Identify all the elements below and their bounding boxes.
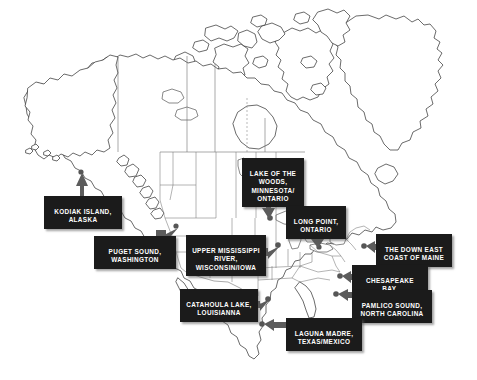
marker-maine	[361, 243, 367, 249]
callout-pamlico-sound-north-carolina[interactable]: PAMLICO SOUND, NORTH CAROLINA	[352, 290, 432, 323]
callout-long-point-ontario[interactable]: LONG POINT, ONTARIO	[286, 206, 346, 239]
callout-down-east-coast-maine[interactable]: THE DOWN EAST COAST OF MAINE	[376, 234, 452, 267]
callout-label-text: LONG POINT, ONTARIO	[294, 218, 339, 233]
callout-label-text: PAMLICO SOUND, NORTH CAROLINA	[360, 302, 423, 317]
newfoundland-island	[375, 164, 398, 184]
florida-peninsula	[295, 282, 316, 318]
arrow-laguna-madre-left	[264, 319, 288, 331]
marker-kodiak	[78, 169, 83, 174]
marker-puget-sound	[173, 223, 178, 228]
callout-label-text: KODIAK ISLAND, ALASKA	[54, 208, 111, 223]
arctic-small-island-c	[193, 40, 209, 52]
arctic-small-island-d	[253, 56, 268, 68]
marker-upper-mississippi	[275, 242, 281, 248]
arctic-small-island-b	[294, 12, 310, 24]
melville-island	[205, 25, 238, 41]
marker-pamlico	[333, 291, 339, 297]
callout-kodiak-island-alaska[interactable]: KODIAK ISLAND, ALASKA	[44, 196, 122, 229]
callout-label-text: LAGUNA MADRE, TEXAS/MEXICO	[295, 330, 354, 345]
arctic-small-island-a	[251, 15, 267, 27]
callout-label-text: LAKE OF THE WOODS, MINNESOTA/ ONTARIO	[250, 170, 296, 202]
callout-lake-of-the-woods[interactable]: LAKE OF THE WOODS, MINNESOTA/ ONTARIO	[242, 158, 304, 207]
callout-puget-sound-washington[interactable]: PUGET SOUND, WASHINGTON	[94, 236, 176, 269]
callout-laguna-madre-texas-mexico[interactable]: LAGUNA MADRE, TEXAS/MEXICO	[286, 318, 362, 351]
marker-chesapeake	[337, 273, 343, 279]
callout-label-text: UPPER MISSISSIPPI RIVER, WISCONSIN/IOWA	[192, 247, 260, 270]
callout-label-text: PUGET SOUND, WASHINGTON	[109, 248, 162, 263]
greenland-landmass	[334, 15, 443, 150]
callout-label-text: THE DOWN EAST COAST OF MAINE	[384, 246, 444, 261]
callout-upper-mississippi-river[interactable]: UPPER MISSISSIPPI RIVER, WISCONSIN/IOWA	[186, 235, 266, 276]
callout-catahoula-lake-louisianna[interactable]: CATAHOULA LAKE, LOUISIANNA	[180, 289, 258, 322]
map-figure: KODIAK ISLAND, ALASKA PUGET SOUND, WASHI…	[0, 0, 477, 380]
callout-label-text: CATAHOULA LAKE, LOUISIANNA	[186, 301, 251, 316]
north-america-map	[0, 0, 477, 380]
marker-laguna-madre	[259, 321, 265, 327]
alaska-peninsula	[25, 55, 118, 159]
